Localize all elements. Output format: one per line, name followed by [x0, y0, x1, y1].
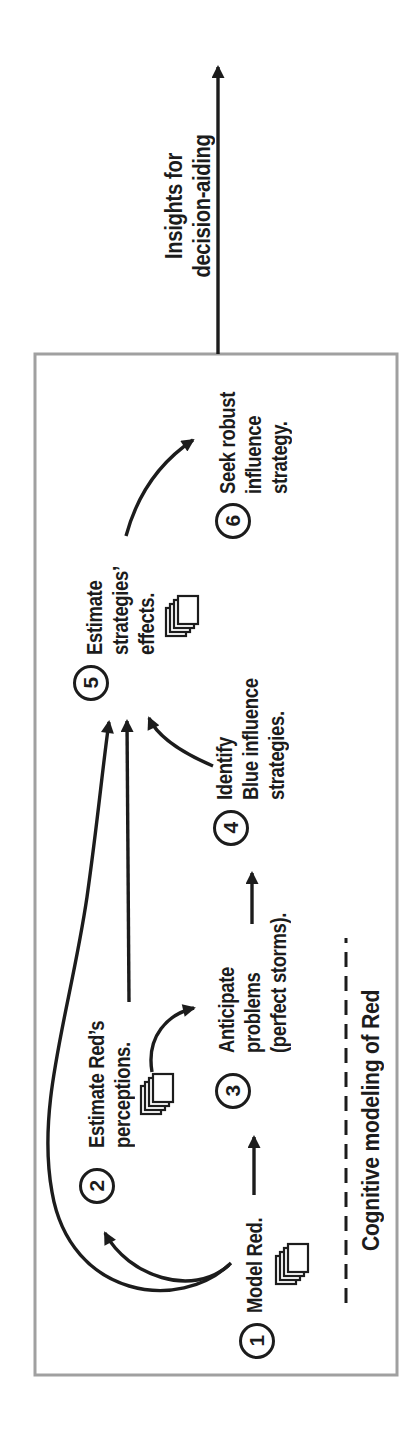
step-2-badge: 2 [79, 1168, 115, 1204]
step-6-label: Seek robust influence strategy. [215, 392, 293, 494]
step-3-label: Anticipate problems (perfect storms). [214, 913, 292, 1053]
step-3-badge: 3 [215, 1073, 251, 1109]
scanned-page: 1 2 3 4 5 6 Model Red. Estimate Red’s pe… [0, 0, 418, 1444]
step-1-badge: 1 [239, 1323, 275, 1359]
insights-line-1: Insights for [160, 76, 188, 336]
step-3-line-2: problems [240, 913, 266, 1053]
step-2-line-1: Estimate Red’s [84, 1021, 110, 1148]
step-6-badge: 6 [215, 503, 251, 539]
step-4-line-2: Blue influence [238, 678, 264, 800]
step-6-line-2: influence [241, 392, 267, 494]
step-1-label: Model Red. [242, 1218, 268, 1313]
step-3-line-1: Anticipate [214, 913, 240, 1053]
cognitive-modeling-label: Cognitive modeling of Red [358, 953, 384, 1289]
step-2-line-2: perceptions. [110, 1021, 136, 1148]
figure-canvas: 1 2 3 4 5 6 Model Red. Estimate Red’s pe… [0, 0, 418, 1444]
step-4-line-3: strategies. [264, 678, 290, 800]
step-5-line-2: strategies’ [108, 566, 134, 655]
step-5-line-3: effects. [134, 566, 160, 655]
step-2-label: Estimate Red’s perceptions. [84, 1021, 136, 1148]
step-1-line-1: Model Red. [242, 1218, 268, 1313]
step-3-line-3: (perfect storms). [266, 913, 292, 1053]
process-box [35, 354, 397, 1375]
step-5-badge: 5 [73, 665, 109, 701]
step-6-line-1: Seek robust [215, 392, 241, 494]
step-6-line-3: strategy. [267, 392, 293, 494]
step-5-line-1: Estimate [82, 566, 108, 655]
arrow-step2-to-step5 [127, 721, 129, 1002]
insights-line-2: decision-aiding [188, 76, 216, 336]
insights-arrow-label: Insights for decision-aiding [160, 76, 216, 336]
step-4-label: Identify Blue influence strategies. [212, 678, 290, 800]
step-4-line-1: Identify [212, 678, 238, 800]
step-4-badge: 4 [213, 810, 249, 846]
step-5-label: Estimate strategies’ effects. [82, 566, 160, 655]
